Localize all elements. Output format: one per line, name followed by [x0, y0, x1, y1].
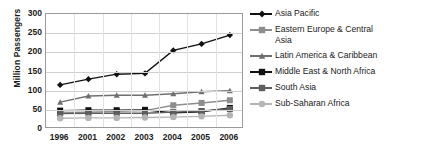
- legend-marker-icon: [250, 8, 272, 19]
- legend-item[interactable]: Sub-Saharan Africa: [250, 98, 422, 109]
- x-axis-tick-labels: 1996200120022003200420052006: [45, 132, 243, 148]
- legend-marker-icon: [250, 66, 272, 77]
- line-chart: Million Passengers 050100150200250300 19…: [0, 0, 425, 153]
- gridline: [46, 33, 242, 34]
- x-tick-label: 2001: [78, 132, 97, 142]
- x-tick-label: 2006: [219, 132, 238, 142]
- x-tick-label: 2004: [163, 132, 182, 142]
- gridline: [46, 110, 242, 111]
- y-tick-label: 0: [37, 124, 42, 132]
- gridline: [46, 91, 242, 92]
- y-tick-label: 100: [28, 86, 42, 94]
- gridline: [46, 52, 242, 53]
- category-divider: [216, 14, 217, 127]
- chart-legend: Asia PacificEastern Europe & Central Asi…: [250, 8, 422, 114]
- y-tick-label: 300: [28, 9, 42, 17]
- y-tick-label: 150: [28, 67, 42, 75]
- x-tick-label: 2005: [191, 132, 210, 142]
- legend-label: Asia Pacific: [275, 8, 319, 19]
- y-axis-tick-labels: 050100150200250300: [14, 10, 42, 130]
- legend-marker-icon: [250, 50, 272, 61]
- x-tick-label: 2002: [106, 132, 125, 142]
- legend-label: Latin America & Caribbean: [275, 50, 377, 61]
- legend-label: Eastern Europe & Central Asia: [275, 24, 373, 45]
- legend-item[interactable]: Middle East & North Africa: [250, 66, 422, 77]
- legend-item[interactable]: South Asia: [250, 82, 422, 93]
- legend-label: Middle East & North Africa: [275, 66, 375, 77]
- legend-label: Sub-Saharan Africa: [275, 98, 350, 109]
- legend-item[interactable]: Asia Pacific: [250, 8, 422, 19]
- y-tick-label: 200: [28, 47, 42, 55]
- category-divider: [187, 14, 188, 127]
- legend-marker-icon: [250, 98, 272, 109]
- legend-item[interactable]: Eastern Europe & Central Asia: [250, 24, 422, 45]
- plot-area: [45, 13, 243, 128]
- legend-label: South Asia: [275, 82, 316, 93]
- category-divider: [103, 14, 104, 127]
- legend-item[interactable]: Latin America & Caribbean: [250, 50, 422, 61]
- category-divider: [131, 14, 132, 127]
- category-divider: [74, 14, 75, 127]
- legend-marker-icon: [250, 82, 272, 93]
- y-tick-label: 50: [33, 105, 42, 113]
- series-asia-pacific: [57, 32, 233, 88]
- category-divider: [159, 14, 160, 127]
- legend-marker-icon: [250, 24, 272, 35]
- y-tick-label: 250: [28, 28, 42, 36]
- gridline: [46, 72, 242, 73]
- x-tick-label: 2003: [135, 132, 154, 142]
- x-tick-label: 1996: [50, 132, 69, 142]
